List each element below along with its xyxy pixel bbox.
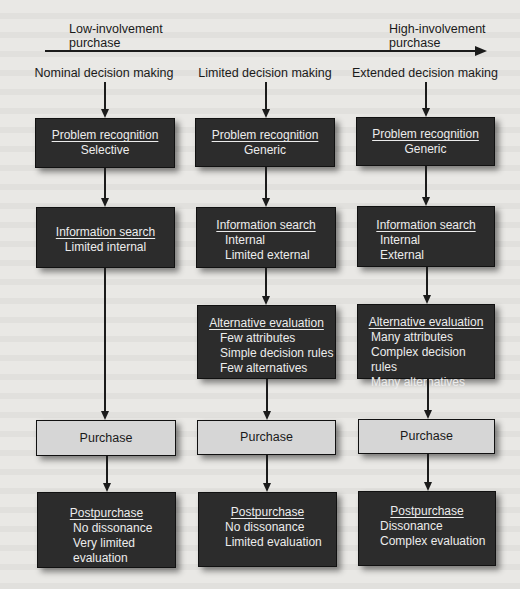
connector-line <box>427 454 429 483</box>
box-title: Postpurchase <box>199 505 336 520</box>
box-line: Internal <box>225 233 335 248</box>
box-line: Internal <box>380 233 494 248</box>
box-title: Postpurchase <box>38 506 175 521</box>
box-line: Limited external <box>225 248 335 263</box>
box-lines: Many attributes Complex decision rules M… <box>358 330 494 390</box>
purchase-box: Purchase <box>36 420 176 456</box>
connector-line <box>425 166 427 198</box>
box-line: No dissonance <box>73 521 175 536</box>
arrow-down-icon <box>101 411 109 420</box>
box-detail: Generic <box>357 142 494 157</box>
column-title-limited: Limited decision making <box>198 66 331 80</box>
box-lines: Dissonance Complex evaluation <box>359 519 495 549</box>
arrow-down-icon <box>101 109 109 118</box>
connector-line <box>106 456 108 484</box>
box-title: Purchase <box>80 431 133 446</box>
box-line: Simple decision rules <box>220 346 335 361</box>
box-line: Many alternatives <box>371 375 494 390</box>
box-line: Many attributes <box>371 330 494 345</box>
low-involvement-line2: purchase <box>69 36 163 50</box>
connector-line <box>104 268 106 412</box>
arrow-down-icon <box>263 411 271 420</box>
column-title-nominal: Nominal decision making <box>35 66 174 80</box>
high-involvement-line2: purchase <box>389 36 486 50</box>
connector-line <box>265 167 267 199</box>
purchase-box: Purchase <box>358 419 495 454</box>
alternative-evaluation-box: Alternative evaluation Few attributes Si… <box>197 305 336 379</box>
arrow-down-icon <box>424 410 432 419</box>
low-involvement-line1: Low-involvement <box>69 22 163 36</box>
box-line: Complex decision rules <box>371 345 494 375</box>
arrow-down-icon <box>424 482 432 491</box>
box-line: Dissonance <box>380 519 495 534</box>
box-lines: No dissonance Very limited evaluation <box>38 521 175 566</box>
box-title: Purchase <box>400 429 453 444</box>
problem-recognition-box: Problem recognition Selective <box>35 118 175 168</box>
connector-line <box>265 268 267 297</box>
arrow-down-icon <box>262 198 270 207</box>
box-title: Alternative evaluation <box>198 316 335 331</box>
problem-recognition-box: Problem recognition Generic <box>356 117 495 166</box>
box-detail: Selective <box>36 143 174 158</box>
box-title: Purchase <box>240 430 293 445</box>
box-line: Few alternatives <box>220 361 335 376</box>
postpurchase-box: Postpurchase Dissonance Complex evaluati… <box>358 491 496 566</box>
box-line: External <box>380 248 494 263</box>
column-title-extended: Extended decision making <box>352 66 498 80</box>
connector-line <box>427 379 429 411</box>
connector-line <box>266 379 268 412</box>
box-title: Problem recognition <box>196 128 334 143</box>
connector-line <box>104 82 106 110</box>
box-title: Information search <box>197 218 335 233</box>
arrow-down-icon <box>422 108 430 117</box>
information-search-box: Information search Limited internal <box>36 207 175 268</box>
connector-line <box>426 267 428 296</box>
arrow-down-icon <box>262 109 270 118</box>
box-line: evaluation <box>73 551 175 566</box>
box-lines: Internal External <box>358 233 494 263</box>
arrow-down-icon <box>422 197 430 206</box>
box-line: Very limited <box>73 536 175 551</box>
box-line: No dissonance <box>225 520 336 535</box>
purchase-box: Purchase <box>197 420 336 455</box>
information-search-box: Information search Internal External <box>357 206 495 267</box>
connector-line <box>104 168 106 199</box>
postpurchase-box: Postpurchase No dissonance Limited evalu… <box>198 492 337 567</box>
axis-line <box>45 50 477 52</box>
low-involvement-label: Low-involvement purchase <box>69 22 163 50</box>
arrow-down-icon <box>103 483 111 492</box>
postpurchase-box: Postpurchase No dissonance Very limited … <box>37 492 176 568</box>
arrow-down-icon <box>262 296 270 305</box>
box-detail: Limited internal <box>37 240 174 255</box>
connector-line <box>425 82 427 109</box>
arrow-down-icon <box>263 483 271 492</box>
box-title: Problem recognition <box>357 127 494 142</box>
box-line: Complex evaluation <box>380 534 495 549</box>
box-title: Problem recognition <box>36 128 174 143</box>
information-search-box: Information search Internal Limited exte… <box>196 207 336 268</box>
box-title: Information search <box>37 225 174 240</box>
connector-line <box>265 82 267 110</box>
connector-line <box>266 455 268 484</box>
box-detail: Generic <box>196 143 334 158</box>
box-title: Information search <box>358 218 494 233</box>
box-line: Few attributes <box>220 331 335 346</box>
box-lines: Internal Limited external <box>197 233 335 263</box>
high-involvement-line1: High-involvement <box>389 22 486 36</box>
box-title: Alternative evaluation <box>358 315 494 330</box>
arrow-down-icon <box>423 295 431 304</box>
box-line: Limited evaluation <box>225 535 336 550</box>
box-title: Postpurchase <box>359 504 495 519</box>
box-lines: No dissonance Limited evaluation <box>199 520 336 550</box>
alternative-evaluation-box: Alternative evaluation Many attributes C… <box>357 304 495 379</box>
arrow-down-icon <box>101 198 109 207</box>
high-involvement-label: High-involvement purchase <box>389 22 486 50</box>
box-lines: Few attributes Simple decision rules Few… <box>198 331 335 376</box>
arrow-right-icon <box>475 46 487 56</box>
problem-recognition-box: Problem recognition Generic <box>195 118 335 167</box>
